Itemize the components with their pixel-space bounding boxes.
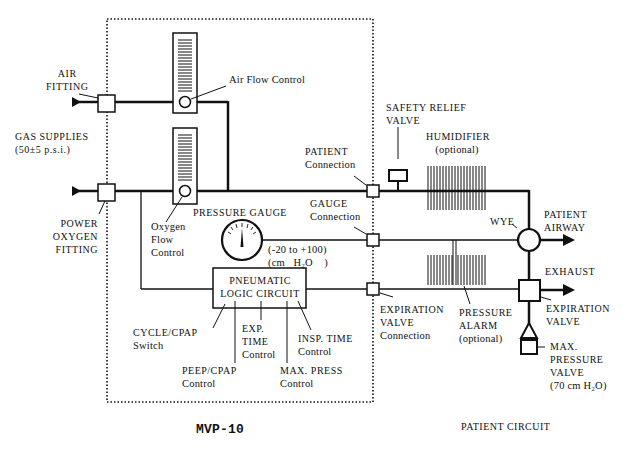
pressure-alarm-label: PRESSURE ALARM (optional)	[459, 306, 512, 345]
wye-label: WYE	[490, 215, 514, 228]
max-pressure-valve-label: MAX. PRESSURE VALVE (70 cm H₂O)	[550, 340, 607, 392]
max-pressure-valve-box	[521, 340, 537, 354]
patient-connection-box	[367, 185, 379, 197]
exp-time-label: EXP. TIME Control	[242, 322, 276, 361]
power-oxygen-fitting-label: POWER OXYGEN FITTING	[45, 217, 98, 256]
gauge-range-label: (-20 to +100) (cm H₂O )	[268, 243, 328, 269]
patient-circuit-title: PATIENT CIRCUIT	[461, 420, 550, 433]
air-flow-control-label: Air Flow Control	[229, 73, 305, 86]
humidifier-hatch	[428, 166, 485, 210]
expiration-valve-box	[519, 280, 540, 301]
pressure-gauge-label: PRESSURE GAUGE	[193, 206, 287, 219]
peep-cpap-label: PEEP/CPAP Control	[182, 364, 237, 390]
patient-airway-arrow	[563, 234, 575, 246]
humidifier-label: HUMIDIFIER (optional)	[426, 130, 488, 156]
pneumatic-logic-label: PNEUMATIC LOGIC CIRCUIT	[214, 274, 306, 300]
insp-time-label: INSP. TIME Control	[298, 332, 353, 358]
air-fitting-label: AIR FITTING	[46, 67, 88, 93]
safety-relief-valve-label: SAFETY RELIEF VALVE	[386, 101, 466, 127]
gauge-connection-label: GAUGE Connection	[310, 197, 360, 223]
expiration-valve-connection-label: EXPIRATION VALVE Connection	[380, 303, 444, 342]
max-pressure-valve-triangle	[521, 323, 537, 338]
gas-supplies-label: GAS SUPPLIES (50±5 p.s.i.)	[15, 130, 89, 156]
exhaust-arrow	[563, 284, 575, 296]
mvp10-title: MVP-10	[196, 423, 244, 436]
expiration-valve-connection-box	[367, 283, 379, 295]
oxygen-fitting-box	[98, 184, 115, 201]
cycle-cpap-label: CYCLE/CPAP Switch	[133, 326, 198, 352]
patient-airway-label: PATIENT AIRWAY	[544, 208, 587, 234]
oxygen-flow-control-label: Oxygen Flow Control	[151, 220, 185, 259]
wye-connector	[518, 229, 540, 251]
patient-connection-label: PATIENT Connection	[305, 145, 355, 171]
max-press-label: MAX. PRESS Control	[280, 364, 343, 390]
exhaust-label: EXHAUST	[545, 265, 595, 278]
expiration-valve-label: EXPIRATION VALVE	[546, 302, 610, 328]
gauge-connection-box	[367, 234, 379, 246]
safety-relief-valve	[389, 170, 407, 181]
air-fitting-box	[98, 95, 115, 112]
